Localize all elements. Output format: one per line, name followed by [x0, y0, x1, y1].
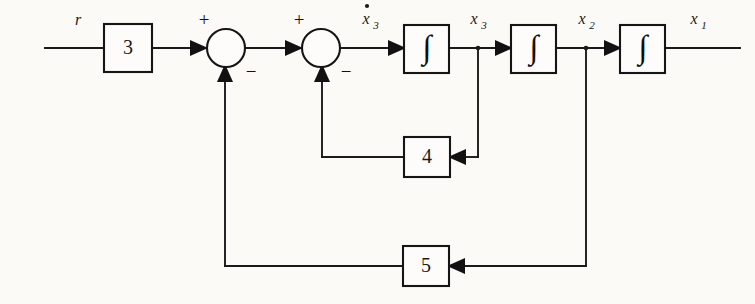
- integrator-block-3[interactable]: ∫: [620, 25, 665, 73]
- junction-dot-x3: [476, 46, 481, 51]
- label-x2-subscript: 2: [589, 19, 595, 31]
- gain-block-3[interactable]: 3: [104, 24, 152, 72]
- gain5-label: 5: [421, 254, 431, 276]
- sum2-circle: [302, 29, 340, 67]
- sum2-minus-sign: −: [341, 61, 352, 82]
- label-x2: x 2: [577, 10, 595, 31]
- label-xdot3-base: x: [361, 10, 369, 27]
- integral-icon: ∫: [527, 29, 540, 67]
- label-x1-subscript: 1: [701, 19, 707, 31]
- sum2-plus-sign: +: [294, 9, 305, 30]
- gain3-label: 3: [123, 36, 133, 58]
- block-diagram-canvas: + − + − 3 4 5 ∫ ∫: [0, 0, 755, 304]
- label-x1-base: x: [689, 10, 697, 27]
- label-xdot3: x 3: [361, 4, 379, 31]
- control-system-block-diagram: + − + − 3 4 5 ∫ ∫: [0, 0, 755, 304]
- label-x3-base: x: [469, 10, 477, 27]
- gain-block-4[interactable]: 4: [404, 137, 450, 177]
- arrowhead-into-sum1: [190, 40, 208, 56]
- sum1-plus-sign: +: [199, 9, 210, 30]
- label-x3-subscript: 3: [480, 19, 487, 31]
- arrowhead-into-sum2: [285, 40, 303, 56]
- label-reference-input: r: [75, 11, 82, 28]
- gain4-label: 4: [422, 145, 432, 167]
- integral-icon: ∫: [636, 29, 649, 67]
- label-x2-base: x: [577, 10, 585, 27]
- label-xdot3-subscript: 3: [372, 19, 379, 31]
- label-x1: x 1: [689, 10, 706, 31]
- xdot3-dot-accent: [365, 4, 369, 8]
- signal-labels: r x 3 x 3 x 2 x 1: [75, 4, 707, 31]
- sum1-minus-sign: −: [246, 61, 257, 82]
- gain-block-5[interactable]: 5: [403, 246, 449, 286]
- integrator-block-1[interactable]: ∫: [404, 25, 449, 73]
- integral-icon: ∫: [420, 29, 433, 67]
- label-x3: x 3: [469, 10, 487, 31]
- junction-dot-x2: [584, 46, 589, 51]
- integrator-block-2[interactable]: ∫: [511, 25, 556, 73]
- sum1-circle: [207, 29, 245, 67]
